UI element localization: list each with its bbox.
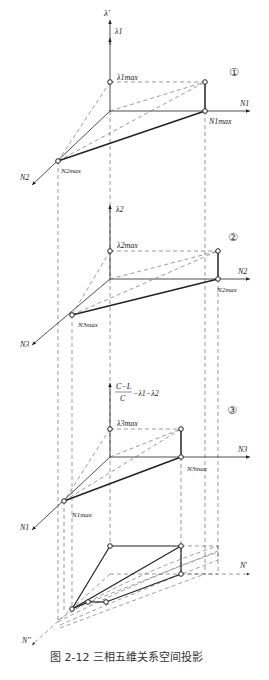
svg-text:N3: N3	[237, 445, 247, 454]
svg-text:N1max: N1max	[208, 117, 232, 126]
projection-lines	[58, 111, 218, 620]
svg-text:λ3max: λ3max	[116, 419, 138, 428]
figure-caption: 图 2-12 三相五维关系空间投影	[50, 650, 203, 664]
svg-text:N2: N2	[19, 173, 29, 182]
svg-text:N3max: N3max	[186, 465, 208, 473]
section-1: λ' λ1 λ1max N1 N1max N2 N2max ①	[19, 8, 250, 185]
svg-text:②: ②	[228, 231, 238, 244]
section-2: λ2 λ2max N2 N2max N3 N3max ②	[19, 205, 250, 349]
svg-text:λ1max: λ1max	[116, 73, 138, 82]
svg-text:λ2: λ2	[115, 205, 123, 214]
svg-text:N1max: N1max	[71, 511, 93, 519]
svg-text:C−L: C−L	[116, 382, 132, 391]
svg-text:N2max: N2max	[60, 167, 82, 175]
five-dimension-projection-diagram: λ' λ1 λ1max N1 N1max N2 N2max ① λ2 λ2max…	[0, 0, 269, 680]
svg-text:N3max: N3max	[77, 321, 99, 329]
svg-text:N3: N3	[19, 340, 29, 349]
svg-text:N1: N1	[19, 523, 29, 532]
bottom-composite: N' N''	[21, 544, 250, 645]
section-3: C−L C −λ1−λ2 λ3max N3 N3max N1 N1max ③	[19, 382, 250, 532]
svg-text:N'': N''	[21, 636, 31, 645]
svg-text:N': N'	[239, 561, 247, 570]
svg-text:λ1: λ1	[114, 27, 122, 36]
svg-text:−λ1−λ2: −λ1−λ2	[133, 389, 159, 398]
svg-text:C: C	[120, 394, 126, 403]
svg-text:①: ①	[229, 66, 239, 79]
svg-text:N2: N2	[237, 267, 247, 276]
svg-text:N1: N1	[239, 99, 249, 108]
svg-text:λ': λ'	[103, 8, 111, 18]
svg-text:N2max: N2max	[216, 286, 238, 294]
svg-text:③: ③	[227, 404, 237, 417]
svg-text:λ2max: λ2max	[116, 241, 138, 250]
